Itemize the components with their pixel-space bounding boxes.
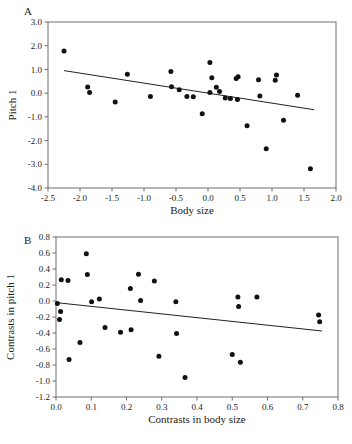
y-axis-title: Pitch 1 [6,90,18,121]
y-tick-label: -0.8 [36,360,51,370]
data-point [214,85,219,90]
y-axis-title: Contrasts in pitch 1 [4,274,16,360]
data-point [184,94,189,99]
x-tick-label: 0.0 [202,193,214,203]
x-tick-label: 0.5 [234,193,246,203]
data-point [85,84,90,89]
x-tick-label: 0.3 [156,402,168,412]
data-point [183,375,188,380]
data-point [223,96,228,101]
data-point [67,357,72,362]
data-point [148,94,153,99]
y-tick-label: -4.0 [28,183,43,193]
x-tick-label: -1.5 [105,193,120,203]
data-point [217,89,222,94]
data-point [55,301,60,306]
y-tick-label: -0.4 [36,328,51,338]
y-tick-label: -1.0 [28,112,43,122]
panel-b: B 0.00.10.20.30.40.50.60.70.8-1.2-1.0-0.… [0,215,352,444]
data-point [245,123,250,128]
data-point [128,286,133,291]
x-tick-label: 0.1 [86,402,97,412]
y-tick-label: -0.6 [36,344,51,354]
data-point [209,75,214,80]
y-tick-label: -3.0 [28,159,43,169]
data-point [200,111,205,116]
y-tick-label: 0.4 [39,264,51,274]
data-point [156,354,161,359]
plot-frame [48,22,336,188]
x-tick-label: 0.5 [227,402,239,412]
x-tick-label: 1.5 [298,193,310,203]
scatter-figure: A -2.5-2.0-1.5-1.0-0.50.00.51.01.52.0-4.… [0,0,352,444]
x-tick-label: 0.2 [121,402,132,412]
data-point [256,77,261,82]
x-tick-label: -2.0 [73,193,88,203]
data-point [177,87,182,92]
y-tick-label: 0.2 [39,280,50,290]
data-points [62,48,313,171]
data-point [113,99,118,104]
data-point [169,84,174,89]
x-tick-label: -2.5 [41,193,56,203]
data-point [62,48,67,53]
data-point [87,90,92,95]
regression-line [56,303,322,331]
data-point [125,72,130,77]
data-point [236,74,241,79]
data-point [65,278,70,283]
data-point [274,73,279,78]
y-tick-label: 0.0 [39,296,51,306]
x-tick-label: 0.6 [262,402,274,412]
data-point [207,60,212,65]
x-tick-label: 0.4 [191,402,203,412]
data-point [59,277,64,282]
y-tick-label: 3.0 [31,17,43,27]
y-tick-label: 1.0 [31,65,43,75]
data-point [136,272,141,277]
data-points [55,251,322,380]
y-tick-label: -1.0 [36,376,51,386]
data-point [238,360,243,365]
data-point [308,166,313,171]
data-point [254,295,259,300]
x-tick-label: -0.5 [169,193,184,203]
panel-a-plot: -2.5-2.0-1.5-1.0-0.50.00.51.01.52.0-4.0-… [0,0,352,218]
data-point [85,272,90,277]
data-point [316,313,321,318]
y-tick-label: -0.2 [36,312,50,322]
y-tick-label: 0.0 [31,88,43,98]
y-tick-label: 2.0 [31,41,43,51]
y-tick-label: 0.8 [39,232,51,242]
data-point [236,304,241,309]
panel-a: A -2.5-2.0-1.5-1.0-0.50.00.51.01.52.0-4.… [0,0,352,218]
data-point [57,317,62,322]
data-point [174,331,179,336]
data-point [129,327,134,332]
data-point [89,299,94,304]
data-point [273,78,278,83]
data-point [118,330,123,335]
data-point [264,146,269,151]
data-point [84,251,89,256]
x-tick-label: 0.8 [332,402,344,412]
x-tick-label: 0.7 [297,402,309,412]
data-point [77,340,82,345]
data-point [228,96,233,101]
x-tick-label: -1.0 [137,193,152,203]
x-axis-title: Contrasts in body size [148,413,246,425]
y-tick-label: -1.2 [36,392,50,402]
panel-b-plot: 0.00.10.20.30.40.50.60.70.8-1.2-1.0-0.8-… [0,215,352,444]
plot-frame [56,237,338,397]
y-tick-label: 0.6 [39,248,51,258]
data-point [317,319,322,324]
data-point [235,97,240,102]
data-point [230,352,235,357]
data-point [168,69,173,74]
data-point [281,118,286,123]
data-point [58,309,63,314]
data-point [152,279,157,284]
x-tick-label: 2.0 [330,193,342,203]
data-point [257,93,262,98]
data-point [173,299,178,304]
